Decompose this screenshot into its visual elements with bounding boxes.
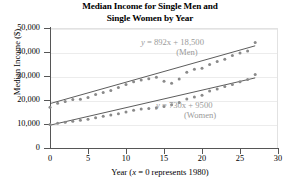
data-point	[208, 90, 211, 93]
data-point	[231, 83, 234, 86]
data-point	[239, 80, 242, 83]
data-point	[49, 106, 52, 109]
data-point	[201, 94, 204, 97]
chart-figure: Median Income for Single Men and Single …	[0, 0, 287, 187]
x-axis-label-suffix: = 0 represents 1980)	[136, 167, 209, 177]
data-point	[147, 77, 150, 80]
data-point	[246, 50, 249, 53]
data-point	[208, 63, 211, 66]
data-point	[223, 58, 226, 61]
data-point	[125, 111, 128, 114]
data-point	[49, 123, 52, 126]
data-point	[56, 122, 59, 125]
data-point	[185, 71, 188, 74]
data-point	[140, 79, 143, 82]
data-point	[246, 78, 249, 81]
data-point	[132, 109, 135, 112]
data-point	[102, 91, 105, 94]
data-point	[79, 98, 82, 101]
women-equation-annotation: y = 730x + 9500	[156, 100, 213, 110]
data-point	[239, 51, 242, 54]
data-point	[117, 112, 120, 115]
data-point	[193, 68, 196, 71]
data-point	[147, 107, 150, 110]
data-point	[163, 80, 166, 83]
x-axis-label-prefix: Year (	[111, 167, 132, 177]
data-point	[223, 85, 226, 88]
data-point	[216, 87, 219, 90]
data-point	[193, 95, 196, 98]
data-point	[87, 118, 90, 121]
data-point	[254, 73, 257, 76]
men-equation-annotation: y = 892x + 18,500	[141, 37, 204, 47]
data-point	[87, 96, 90, 99]
data-point	[216, 60, 219, 63]
data-point	[132, 80, 135, 83]
data-point	[170, 82, 173, 85]
data-point	[64, 121, 67, 124]
men-equation-rhs: = 892x + 18,500	[145, 37, 204, 47]
women-equation-rhs: = 730x + 9500	[160, 100, 213, 110]
data-point	[178, 78, 181, 81]
data-point	[56, 102, 59, 105]
data-point	[102, 115, 105, 118]
data-point	[155, 76, 158, 79]
data-point	[94, 116, 97, 119]
data-point	[64, 100, 67, 103]
data-point	[109, 89, 112, 92]
data-point	[140, 108, 143, 111]
data-point	[254, 41, 257, 44]
women-series-label: (Women)	[156, 110, 244, 120]
men-series-label: (Men)	[141, 47, 233, 57]
x-axis-label: Year (x = 0 represents 1980)	[40, 167, 280, 177]
data-point	[79, 119, 82, 122]
data-point	[125, 83, 128, 86]
data-point	[109, 113, 112, 116]
data-point	[201, 67, 204, 70]
data-point	[117, 86, 120, 89]
data-layer	[0, 0, 287, 187]
data-point	[71, 98, 74, 101]
data-point	[94, 93, 97, 96]
data-point	[71, 120, 74, 123]
